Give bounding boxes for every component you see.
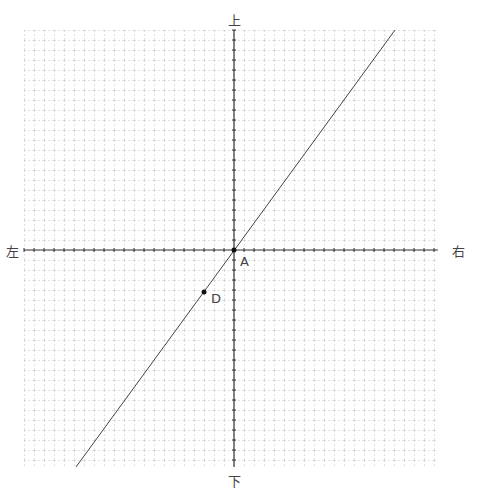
label-right: 右 [452, 241, 465, 260]
point-d [202, 290, 207, 295]
grid-diagram [0, 0, 477, 498]
label-down: 下 [228, 471, 241, 490]
point-d-label: D [211, 291, 221, 306]
label-up: 上 [228, 10, 241, 29]
label-left: 左 [6, 241, 19, 260]
point-a-label: A [240, 254, 249, 269]
grid [24, 30, 438, 467]
point-a [232, 248, 237, 253]
